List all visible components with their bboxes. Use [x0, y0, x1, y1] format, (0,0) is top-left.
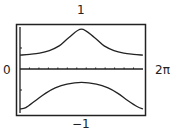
- upper-curve: [20, 29, 143, 55]
- plot-area: [0, 0, 178, 135]
- lower-curve: [20, 82, 143, 108]
- plot-frame: [17, 25, 146, 116]
